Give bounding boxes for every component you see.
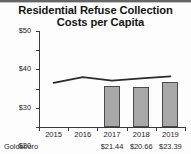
x-axis-label: 2015	[45, 130, 62, 139]
x-axis-label: 2019	[162, 130, 179, 139]
plot-area: $0$10$20$30$40$50	[39, 31, 185, 128]
y-tick-label: $50	[19, 27, 31, 35]
data-table-row: Goldsboro $21.44$20.66$23.39	[0, 141, 191, 153]
series-row-label: Goldsboro	[4, 142, 38, 151]
scan-artifact-line-secondary	[0, 2, 191, 3]
x-axis-labels: 20152016201720182019	[39, 130, 185, 141]
x-axis-label: 2017	[104, 130, 121, 139]
y-tick-label: $30	[19, 104, 31, 112]
table-cell: $21.44	[101, 142, 124, 151]
y-tick-label: $40	[19, 65, 31, 73]
x-axis-label: 2016	[74, 130, 91, 139]
table-cell: $23.39	[159, 142, 182, 151]
table-cell: $20.66	[130, 142, 153, 151]
x-axis-label: 2018	[133, 130, 150, 139]
x-tick	[185, 127, 186, 131]
chart-title-line-1: Residential Refuse Collection	[0, 4, 191, 16]
line-series-benchmark	[39, 31, 185, 128]
chart-figure: Residential Refuse Collection Costs per …	[0, 0, 191, 154]
